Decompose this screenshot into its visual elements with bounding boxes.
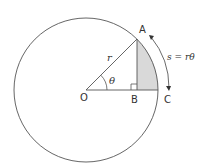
label-O: O	[80, 92, 88, 103]
label-B: B	[131, 94, 138, 105]
circle-diagram: O A B C r θ s = rθ	[0, 0, 206, 168]
arrowhead-bottom-icon	[166, 86, 171, 91]
label-C: C	[164, 94, 171, 105]
label-A: A	[139, 24, 146, 35]
label-radius: r	[107, 52, 113, 63]
right-angle-marker	[131, 84, 137, 90]
label-angle: θ	[109, 75, 115, 86]
shaded-region	[137, 39, 158, 90]
label-arc-formula: s = rθ	[167, 52, 195, 62]
angle-arc	[101, 75, 107, 90]
